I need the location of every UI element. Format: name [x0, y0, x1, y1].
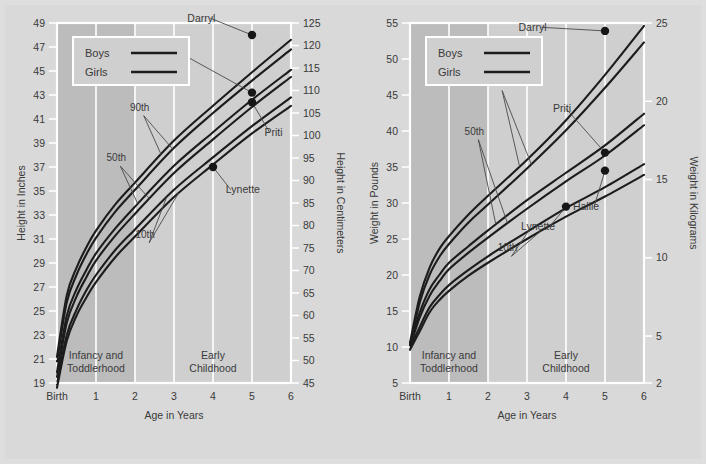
data-point-lynette[interactable] [562, 202, 570, 210]
x-axis-title: Age in Years [145, 409, 204, 421]
y-axis-right: 4550556065707580859095100105110115120125 [291, 17, 321, 389]
chart-frame: 1921232527293133353739414345474945505560… [5, 5, 701, 459]
tick-label-right-5: 5 [656, 330, 662, 342]
tick-label-x-4: 4 [210, 390, 216, 402]
annotation-50th: 50th [465, 126, 484, 137]
tick-label-x-1: 1 [93, 390, 99, 402]
tick-label-right-80: 80 [303, 219, 315, 231]
tick-label-right-70: 70 [303, 264, 315, 276]
tick-label-left-55: 55 [386, 17, 398, 29]
tick-label-right-120: 120 [303, 39, 321, 51]
tick-label-right-110: 110 [303, 84, 320, 96]
data-point-label-darryl: Darryl [187, 12, 215, 24]
tick-label-left-19: 19 [33, 377, 45, 389]
tick-label-left-45: 45 [386, 89, 398, 101]
tick-label-right-25: 25 [656, 17, 668, 29]
tick-label-left-40: 40 [386, 125, 398, 137]
tick-label-right-50: 50 [303, 354, 315, 366]
tick-label-left-39: 39 [33, 137, 45, 149]
tick-label-left-5: 5 [392, 377, 398, 389]
tick-label-right-55: 55 [303, 332, 315, 344]
legend-label-girls: Girls [438, 66, 461, 78]
y-axis-title-right: Height in Centimeters [335, 153, 347, 254]
data-point-label-lynette: Lynette [521, 220, 555, 232]
tick-label-right-90: 90 [303, 174, 315, 186]
tick-label-left-33: 33 [33, 209, 45, 221]
tick-label-left-31: 31 [33, 233, 45, 245]
tick-label-x-0: Birth [46, 390, 68, 402]
data-point-priti[interactable] [248, 98, 256, 106]
data-point-label-priti: Priti [553, 102, 571, 114]
tick-label-left-21: 21 [33, 353, 45, 365]
band-label-1: Childhood [542, 362, 589, 374]
weight-chart-panel: 5101520253035404550552510152025Birth1234… [358, 5, 706, 464]
weight-chart: 5101520253035404550552510152025Birth1234… [358, 5, 706, 459]
tick-label-x-5: 5 [602, 390, 608, 402]
y-axis-left: 510152025303540455055 [386, 17, 410, 389]
annotation-50th: 50th [107, 152, 126, 163]
data-point-hallie[interactable] [601, 166, 609, 174]
tick-label-x-2: 2 [132, 390, 138, 402]
x-axis-title: Age in Years [498, 409, 557, 421]
tick-label-right-85: 85 [303, 197, 315, 209]
tick-label-left-25: 25 [33, 305, 45, 317]
x-axis: Birth123456Age in Years [46, 390, 294, 421]
tick-label-right-20: 20 [656, 95, 668, 107]
tick-label-right-65: 65 [303, 287, 315, 299]
tick-label-right-45: 45 [303, 377, 315, 389]
tick-label-x-3: 3 [524, 390, 530, 402]
tick-label-x-0: Birth [399, 390, 421, 402]
tick-label-right-100: 100 [303, 129, 321, 141]
tick-label-x-6: 6 [288, 390, 294, 402]
data-point-label-priti: Priti [264, 126, 282, 138]
tick-label-right-105: 105 [303, 107, 321, 119]
data-point-darryl[interactable] [248, 31, 256, 39]
tick-label-left-35: 35 [386, 161, 398, 173]
growth-charts-page: 1921232527293133353739414345474945505560… [0, 0, 706, 464]
tick-label-right-125: 125 [303, 17, 321, 29]
band-label-0: Toddlerhood [420, 362, 478, 374]
legend-label-girls: Girls [85, 66, 108, 78]
band-label-0: Infancy and [422, 349, 476, 361]
annotation-90th: 90th [130, 102, 149, 113]
tick-label-x-5: 5 [249, 390, 255, 402]
legend: BoysGirls [426, 37, 542, 85]
band-label-0: Infancy and [69, 349, 123, 361]
data-point-label-darryl: Darryl [519, 21, 547, 33]
tick-label-right-75: 75 [303, 242, 315, 254]
tick-label-left-49: 49 [33, 17, 45, 29]
tick-label-x-3: 3 [171, 390, 177, 402]
tick-label-left-29: 29 [33, 257, 45, 269]
legend-label-boys: Boys [85, 47, 110, 59]
tick-label-left-41: 41 [33, 113, 45, 125]
data-point-label-lynette: Lynette [226, 183, 260, 195]
tick-label-right-60: 60 [303, 309, 315, 321]
tick-label-left-25: 25 [386, 233, 398, 245]
tick-label-left-47: 47 [33, 41, 45, 53]
band-label-0: Toddlerhood [67, 362, 125, 374]
tick-label-right-15: 15 [656, 173, 668, 185]
y-axis-title-right: Weight in Kilograms [688, 156, 700, 249]
legend-label-boys: Boys [438, 47, 463, 59]
data-point-darryl[interactable] [601, 27, 609, 35]
tick-label-left-10: 10 [386, 341, 398, 353]
band-label-1: Early [554, 349, 579, 361]
y-axis-left: 19212325272931333537394143454749 [33, 17, 57, 389]
y-axis-right: 2510152025 [644, 17, 668, 389]
tick-label-left-45: 45 [33, 65, 45, 77]
data-point-label-hallie: Hallie [573, 200, 599, 212]
tick-label-left-30: 30 [386, 197, 398, 209]
data-point-lynette[interactable] [209, 163, 217, 171]
tick-label-left-23: 23 [33, 329, 45, 341]
y-axis-title-left: Height in Inches [15, 165, 27, 240]
tick-label-right-2: 2 [656, 377, 662, 389]
band-label-1: Childhood [189, 362, 236, 374]
tick-label-x-2: 2 [485, 390, 491, 402]
tick-label-x-4: 4 [563, 390, 569, 402]
tick-label-right-95: 95 [303, 152, 315, 164]
data-point-priti[interactable] [601, 148, 609, 156]
tick-label-left-20: 20 [386, 269, 398, 281]
data-point-hallie[interactable] [248, 88, 256, 96]
tick-label-left-35: 35 [33, 185, 45, 197]
height-chart-panel: 1921232527293133353739414345474945505560… [5, 5, 358, 464]
